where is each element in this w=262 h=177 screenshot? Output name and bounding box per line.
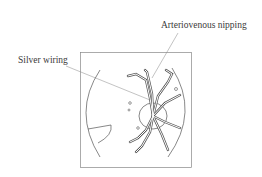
exudate-dot [128, 109, 130, 111]
fundus-diagram: Arteriovenous nipping Silver wiring [0, 0, 262, 177]
exudate-dot [137, 127, 140, 130]
fundus-edge-right [168, 68, 185, 157]
exudate-dot [129, 102, 132, 105]
exudate-dot [175, 88, 178, 91]
fundus-edge-left [86, 70, 100, 157]
fundus-illustration [0, 0, 262, 177]
leader-silver-wiring [66, 66, 150, 100]
frame [81, 53, 192, 168]
